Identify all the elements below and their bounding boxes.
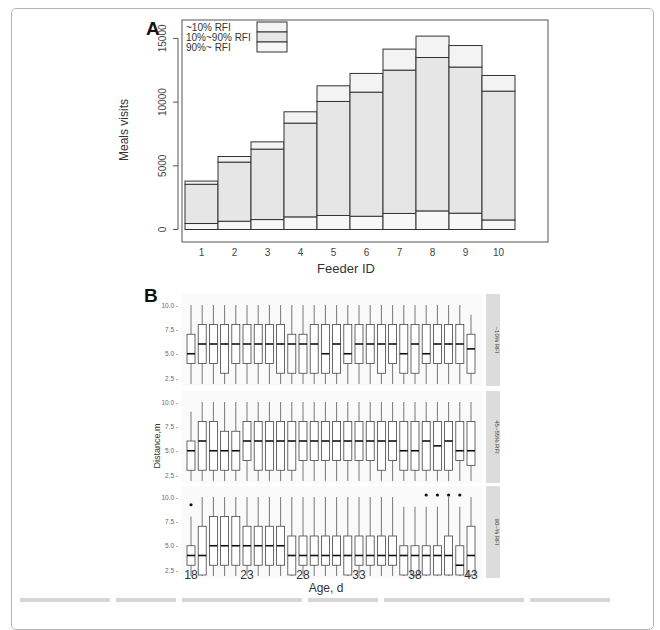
bar-segment [350,92,383,216]
figure-caption-cutoff [20,598,640,606]
y-tick-label: 10.0 - [161,494,178,501]
bar-stack-feeder-4 [284,112,317,230]
bar-stack-feeder-7 [383,49,416,229]
x-tick-label: 2 [232,247,238,258]
y-tick-label: 7.5 - [165,518,178,525]
y-tick-label: 2.5 - [165,567,178,574]
y-tick-label: 2.5 - [165,375,178,382]
x-tick-label: 9 [463,247,469,258]
x-tick-label: 33 [352,568,366,582]
y-axis-label: Meals visits [117,99,131,161]
legend-swatch [257,22,287,32]
legend-swatch [257,42,287,52]
outlier-point [189,503,192,506]
bar-segment [284,217,317,230]
outlier-point [447,493,450,496]
y-tick-label: 2.5 - [165,472,178,479]
bar-segment [317,215,350,229]
x-tick-label: 43 [464,568,478,582]
chart-legend: ~10% RFI10%~90% RFI90%~ RFI [186,22,287,53]
x-tick-label: 7 [397,247,403,258]
stacked-bar-chart: 05000100001500012345678910 ~10% RFI10%~9… [0,0,660,290]
y-tick-label: 5.0 - [165,350,178,357]
bar-segment [218,162,251,221]
x-tick-label: 5 [331,247,337,258]
x-tick-label: 1 [199,247,205,258]
facet-panel: 90~% RFI2.5 -5.0 -7.5 -10.0 - [161,486,500,578]
y-tick-label: 5.0 - [165,447,178,454]
bar-segment [317,101,350,215]
x-tick-label: 8 [430,247,436,258]
bar-segment [350,73,383,92]
bar-stack-feeder-9 [449,46,482,230]
x-axis-label: Age, d [309,581,344,595]
x-axis-label: Feeder ID [317,261,375,276]
bar-segment [185,181,218,184]
y-tick-label: 5000 [157,154,168,177]
bar-segment [317,86,350,102]
bar-stack-feeder-2 [218,156,251,229]
bar-segment [482,75,515,91]
bar-stack-feeder-6 [350,73,383,229]
bar-segment [383,49,416,70]
bar-segment [416,211,449,230]
x-tick-label: 10 [493,247,505,258]
bar-segment [284,123,317,217]
x-tick-label: 38 [408,568,422,582]
bar-stack-feeder-1 [185,181,218,229]
bar-segment [218,156,251,162]
y-tick-label: 7.5 - [165,326,178,333]
bar-stack-feeder-3 [251,142,284,230]
bar-segment [383,70,416,213]
bar-segment [185,184,218,223]
outlier-point [425,493,428,496]
legend-swatch [257,32,287,42]
bar-segment [350,216,383,229]
bar-segment [482,220,515,230]
y-tick-label: 10000 [157,88,168,116]
y-tick-label: 7.5 - [165,423,178,430]
x-tick-label: 28 [296,568,310,582]
bar-segment [449,46,482,68]
facet-strip-label: ~10% RFI [494,327,500,354]
facet-strip-label: 45~55% RFI [494,420,500,454]
x-tick-label: 18 [184,568,198,582]
y-tick-label: 0 [157,226,168,232]
y-axis-label: Distance,m [152,423,162,468]
bar-segment [251,142,284,149]
x-tick-label: 23 [240,568,254,582]
bar-stack-feeder-5 [317,86,350,230]
y-tick-label: 15000 [157,24,168,52]
facet-strip-label: 90~% RFI [494,519,500,546]
outlier-point [458,493,461,496]
bar-segment [218,221,251,229]
bar-segment [284,112,317,123]
x-tick-label: 3 [265,247,271,258]
y-tick-label: 5.0 - [165,542,178,549]
bar-segment [449,213,482,229]
bar-segment [416,36,449,57]
bar-stack-feeder-8 [416,36,449,229]
facet-panel: ~10% RFI2.5 -5.0 -7.5 -10.0 - [161,294,500,386]
bar-segment [185,224,218,230]
bar-segment [449,67,482,213]
y-tick-label: 10.0 - [161,399,178,406]
outlier-point [436,493,439,496]
bar-segment [416,58,449,211]
y-tick-label: 10.0 - [161,302,178,309]
bar-segment [482,91,515,220]
bar-segment [251,220,284,230]
x-tick-label: 4 [298,247,304,258]
bar-stack-feeder-10 [482,75,515,229]
legend-label: 90%~ RFI [186,42,231,53]
x-tick-label: 6 [364,247,370,258]
facet-panel: 45~55% RFI2.5 -5.0 -7.5 -10.0 - [161,391,500,483]
boxplot-chart: ~10% RFI2.5 -5.0 -7.5 -10.0 -45~55% RFI2… [0,286,660,606]
bar-segment [383,213,416,229]
bar-segment [251,149,284,219]
